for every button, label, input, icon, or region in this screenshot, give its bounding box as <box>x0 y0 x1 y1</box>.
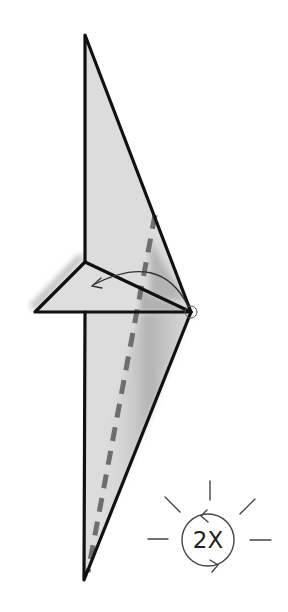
origami-diagram: 2X <box>0 0 288 612</box>
ray-top-right <box>240 499 255 514</box>
ray-top-left <box>165 497 180 512</box>
repeat-label: 2X <box>193 527 224 553</box>
arrowhead-top <box>201 510 208 522</box>
